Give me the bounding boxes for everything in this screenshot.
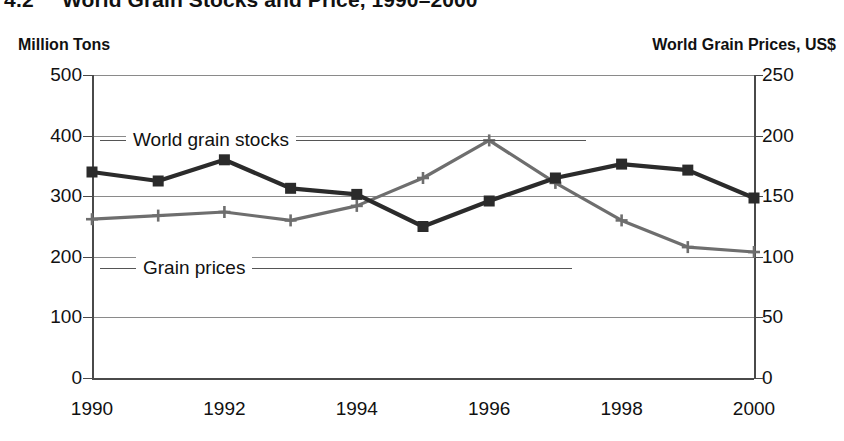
left-axis-tick [83, 136, 92, 137]
chart-page: 4.2 World Grain Stocks and Price, 1990–2… [0, 0, 844, 441]
right-axis-tick [754, 378, 763, 379]
right-axis-tick-label: 150 [762, 185, 832, 207]
x-axis-tick-label: 1996 [468, 398, 510, 420]
leader-line-right [252, 268, 572, 269]
left-axis-tick-label: 200 [12, 246, 82, 268]
annotation-world-grain-stocks: World grain stocks [100, 129, 586, 151]
data-point-marker-square [219, 154, 230, 165]
data-point-marker-plus [86, 213, 98, 225]
x-axis-tick-label: 1994 [336, 398, 378, 420]
left-axis-caption: Million Tons [18, 36, 110, 54]
data-point-marker-square [484, 196, 495, 207]
leader-line-left [100, 268, 136, 269]
left-axis-tick [83, 75, 92, 76]
data-point-marker-plus [682, 241, 694, 253]
data-point-marker-plus [285, 214, 297, 226]
left-axis-tick [83, 378, 92, 379]
right-axis-tick-label: 200 [762, 125, 832, 147]
x-axis-tick-label: 2000 [733, 398, 775, 420]
plot-area [92, 75, 754, 378]
right-axis-tick-label: 250 [762, 64, 832, 86]
right-axis-tick [754, 257, 763, 258]
data-point-marker-square [351, 189, 362, 200]
data-point-marker-square [682, 165, 693, 176]
annotation-stocks-text: World grain stocks [126, 129, 296, 151]
figure-number: 4.2 [4, 0, 34, 12]
data-point-marker-square [153, 176, 164, 187]
left-axis-tick [83, 317, 92, 318]
right-axis-tick [754, 317, 763, 318]
annotation-prices-text: Grain prices [136, 257, 252, 279]
page-title: World Grain Stocks and Price, 1990–2000 [62, 0, 478, 12]
annotation-grain-prices: Grain prices [100, 257, 572, 279]
data-point-marker-square [418, 221, 429, 232]
left-axis-tick-label: 300 [12, 185, 82, 207]
leader-line-left [100, 140, 126, 141]
data-point-marker-square [87, 167, 98, 178]
data-point-marker-plus [351, 200, 363, 212]
left-axis-tick-label: 0 [12, 367, 82, 389]
line-world-grain-stocks [92, 160, 754, 227]
right-axis-tick-label: 50 [762, 306, 832, 328]
right-axis-tick-label: 0 [762, 367, 832, 389]
left-axis-tick-label: 500 [12, 64, 82, 86]
x-axis-tick-label: 1992 [203, 398, 245, 420]
data-point-marker-square [285, 183, 296, 194]
series-plot [92, 75, 754, 378]
data-point-marker-square [550, 173, 561, 184]
x-axis-line [92, 378, 754, 380]
figure-title-row: 4.2 World Grain Stocks and Price, 1990–2… [0, 0, 844, 18]
line-grain-prices [92, 140, 754, 252]
right-axis-tick [754, 136, 763, 137]
data-point-marker-square [749, 193, 760, 204]
data-point-marker-square [616, 159, 627, 170]
left-axis-tick [83, 196, 92, 197]
right-axis-line [754, 75, 756, 378]
data-point-marker-plus [152, 210, 164, 222]
left-axis-tick-label: 400 [12, 125, 82, 147]
right-axis-tick [754, 75, 763, 76]
right-axis-tick-label: 100 [762, 246, 832, 268]
x-axis-tick-label: 1990 [71, 398, 113, 420]
left-axis-tick-label: 100 [12, 306, 82, 328]
right-axis-caption: World Grain Prices, US$ [652, 36, 836, 54]
leader-line-right [296, 140, 586, 141]
markers-grain-prices [86, 134, 760, 258]
left-axis-tick [83, 257, 92, 258]
x-axis-tick-label: 1998 [600, 398, 642, 420]
data-point-marker-plus [218, 206, 230, 218]
